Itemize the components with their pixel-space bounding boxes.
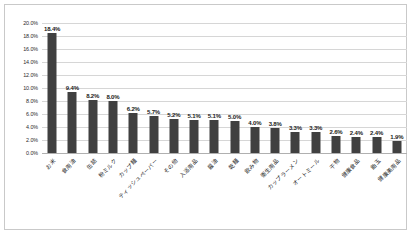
bar-slot: 3.8% — [265, 23, 285, 153]
y-axis-tick-label: 0.0% — [26, 150, 38, 156]
bar-slot: 2.4% — [366, 23, 386, 153]
bar[interactable] — [352, 137, 361, 153]
bar-value-label: 5.1% — [188, 113, 201, 119]
bar-value-label: 2.4% — [350, 130, 363, 136]
bar[interactable] — [210, 120, 219, 153]
y-axis-tick-label: 4.0% — [26, 124, 38, 130]
x-axis-tick: 醤油 — [204, 155, 224, 231]
bar-slot: 2.4% — [346, 23, 366, 153]
x-axis-tick: 衛生用品 — [265, 155, 285, 231]
bar-value-label: 8.2% — [86, 93, 99, 99]
x-axis-tick-label: 干物 — [328, 157, 342, 171]
y-axis-tick-label: 20.0% — [23, 20, 38, 26]
x-axis-tick: お米 — [42, 155, 62, 231]
bar[interactable] — [332, 136, 341, 153]
bar[interactable] — [169, 119, 178, 153]
bar-series: 18.4%9.4%8.2%8.0%6.2%5.7%5.2%5.1%5.1%5.0… — [42, 23, 407, 153]
x-axis-tick: 飴玉 — [366, 155, 386, 231]
bar[interactable] — [88, 100, 97, 153]
bar-value-label: 3.8% — [269, 121, 282, 127]
bar-value-label: 6.2% — [127, 106, 140, 112]
bar[interactable] — [271, 128, 280, 153]
bar-value-label: 5.2% — [167, 112, 180, 118]
x-axis-tick: 健康食品 — [346, 155, 366, 231]
y-axis: 0.0%2.0%4.0%6.0%8.0%10.0%12.0%14.0%16.0%… — [5, 23, 40, 153]
bar[interactable] — [129, 113, 138, 153]
bar-slot: 9.4% — [62, 23, 82, 153]
bar-slot: 5.1% — [184, 23, 204, 153]
y-axis-tick-label: 10.0% — [23, 85, 38, 91]
x-axis-tick: 食用油 — [62, 155, 82, 231]
bar-chart: 0.0%2.0%4.0%6.0%8.0%10.0%12.0%14.0%16.0%… — [0, 0, 411, 234]
x-axis-tick: その他 — [164, 155, 184, 231]
bar-slot: 2.6% — [326, 23, 346, 153]
y-axis-tick-label: 14.0% — [23, 59, 38, 65]
bar-value-label: 18.4% — [44, 26, 60, 32]
bar[interactable] — [149, 116, 158, 153]
x-axis-tick: 乾麺 — [225, 155, 245, 231]
bar-value-label: 3.3% — [309, 125, 322, 131]
bar[interactable] — [190, 120, 199, 153]
x-axis-tick-label: 醤油 — [206, 157, 220, 171]
bar-value-label: 5.1% — [208, 113, 221, 119]
bar-value-label: 9.4% — [66, 85, 79, 91]
bar[interactable] — [68, 92, 77, 153]
bar-value-label: 8.0% — [106, 94, 119, 100]
y-axis-tick-label: 8.0% — [26, 98, 38, 104]
bar[interactable] — [392, 141, 401, 153]
bar[interactable] — [250, 127, 259, 153]
bar[interactable] — [291, 132, 300, 153]
x-axis-tick: 健康美用品 — [387, 155, 407, 231]
bar-slot: 4.0% — [245, 23, 265, 153]
bar[interactable] — [230, 121, 239, 154]
bar-slot: 8.2% — [83, 23, 103, 153]
y-axis-tick-label: 18.0% — [23, 33, 38, 39]
bar-slot: 5.2% — [164, 23, 184, 153]
bar-slot: 5.7% — [143, 23, 163, 153]
x-axis-tick: 缶詰 — [83, 155, 103, 231]
y-axis-tick-label: 2.0% — [26, 137, 38, 143]
bar[interactable] — [108, 101, 117, 153]
y-axis-tick-label: 6.0% — [26, 111, 38, 117]
bar[interactable] — [311, 132, 320, 153]
bar-slot: 1.9% — [387, 23, 407, 153]
x-axis-tick-label: 食用油 — [60, 157, 78, 175]
bar-slot: 18.4% — [42, 23, 62, 153]
x-axis: お米食用油缶詰粉ミルクカップ麺ティッシュペーパーその他入浴用品醤油乾麺飲み物衛生… — [42, 155, 407, 231]
x-axis-tick: 干物 — [326, 155, 346, 231]
bar-value-label: 4.0% — [248, 120, 261, 126]
x-axis-tick: 飲み物 — [245, 155, 265, 231]
bar-value-label: 2.6% — [329, 129, 342, 135]
bar-value-label: 2.4% — [370, 130, 383, 136]
y-axis-tick-label: 12.0% — [23, 72, 38, 78]
x-axis-tick: 入浴用品 — [184, 155, 204, 231]
bar[interactable] — [48, 33, 57, 153]
bar-value-label: 3.3% — [289, 125, 302, 131]
bar-slot: 3.3% — [285, 23, 305, 153]
x-axis-tick-label: 乾麺 — [226, 157, 240, 171]
x-axis-tick-label: 飴玉 — [368, 157, 382, 171]
bar-value-label: 5.7% — [147, 109, 160, 115]
bar-value-label: 5.0% — [228, 114, 241, 120]
bar-slot: 5.1% — [204, 23, 224, 153]
bar-slot: 3.3% — [306, 23, 326, 153]
bar-value-label: 1.9% — [390, 134, 403, 140]
x-axis-tick: カップラーメン — [285, 155, 305, 231]
chart-frame: 0.0%2.0%4.0%6.0%8.0%10.0%12.0%14.0%16.0%… — [4, 4, 407, 230]
x-axis-tick: ティッシュペーパー — [143, 155, 163, 231]
bar[interactable] — [372, 137, 381, 153]
plot-area: 18.4%9.4%8.2%8.0%6.2%5.7%5.2%5.1%5.1%5.0… — [42, 23, 407, 153]
bar-slot: 5.0% — [225, 23, 245, 153]
bar-slot: 6.2% — [123, 23, 143, 153]
y-axis-tick-label: 16.0% — [23, 46, 38, 52]
x-axis-tick: オートミール — [306, 155, 326, 231]
bar-slot: 8.0% — [103, 23, 123, 153]
x-axis-tick-label: 缶詰 — [84, 157, 98, 171]
x-axis-tick-label: お米 — [44, 157, 58, 171]
axis-baseline — [42, 153, 407, 154]
